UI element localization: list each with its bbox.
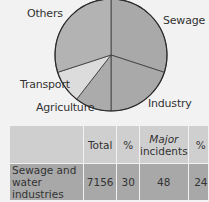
row-name: Sewage andwater industries: [10, 164, 84, 201]
row-percent: 20: [117, 201, 140, 202]
row-percent-2: 24: [188, 164, 208, 201]
header-percent-2: %: [188, 126, 208, 164]
header-percent: %: [117, 126, 140, 164]
label-transport: Transport: [20, 78, 70, 91]
table-row: Sewage andwater industries 7156 30 48 24: [10, 164, 209, 201]
label-industry: Industry: [148, 97, 192, 110]
label-agriculture: Agriculture: [36, 101, 94, 114]
header-major-line1: Major: [149, 133, 178, 145]
incidents-table: Total % Majorincidents % Sewage andwater…: [9, 125, 208, 201]
row-total: 4763: [83, 201, 117, 202]
table-header-row: Total % Majorincidents %: [10, 126, 209, 164]
table-row: Industry 4763 20 62 31: [10, 201, 209, 202]
header-major-line2: incidents: [140, 145, 188, 157]
row-name-line2: water industries: [12, 176, 64, 200]
row-name: Industry: [10, 201, 84, 202]
label-sewage: Sewage: [163, 14, 205, 27]
header-major-incidents: Majorincidents: [139, 126, 188, 164]
row-major: 62: [139, 201, 188, 202]
row-total: 7156: [83, 164, 117, 201]
row-percent-2: 31: [188, 201, 208, 202]
row-major: 48: [139, 164, 188, 201]
row-name-line1: Sewage and: [12, 164, 76, 176]
header-total: Total: [83, 126, 117, 164]
header-blank: [10, 126, 84, 164]
row-percent: 30: [117, 164, 140, 201]
label-others: Others: [27, 7, 63, 20]
